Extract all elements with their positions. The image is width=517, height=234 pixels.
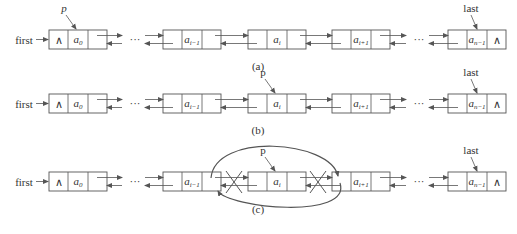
list-node: ai−1 (163, 94, 221, 113)
panel-a: first∧a0ai−1aiai+1an−1∧······plast(a) (15, 2, 506, 73)
ellipsis: ··· (130, 33, 141, 45)
p-pointer-arrow (66, 15, 76, 29)
p-pointer-label: p (60, 2, 67, 14)
head-pointer-label: first (15, 98, 33, 110)
list-node: ∧a0 (49, 172, 107, 191)
null-prior-field: ∧ (55, 98, 63, 110)
ellipsis: ··· (414, 97, 425, 109)
list-node: ai−1 (163, 30, 221, 49)
p-pointer-label: p (260, 66, 266, 78)
panel-c: first∧a0ai−1aiai+1an−1∧······plast(c) (15, 144, 506, 216)
list-node: an−1∧ (448, 30, 506, 49)
list-node: ai−1 (163, 172, 221, 191)
null-prior-field: ∧ (55, 34, 63, 46)
list-node: ai+1 (332, 30, 390, 49)
null-next-field: ∧ (493, 176, 501, 188)
list-node: ∧a0 (49, 30, 107, 49)
linked-list-diagram: first∧a0ai−1aiai+1an−1∧······plast(a)fir… (0, 0, 517, 234)
panel-b: first∧a0ai−1aiai+1an−1∧······plast(b) (15, 66, 506, 137)
null-next-field: ∧ (493, 98, 501, 110)
ellipsis: ··· (130, 97, 141, 109)
last-pointer-label: last (463, 144, 478, 156)
list-node: ai (248, 94, 306, 113)
head-pointer-label: first (15, 34, 33, 46)
list-node: ai (248, 172, 306, 191)
panel-caption: (b) (252, 124, 265, 137)
list-node: ∧a0 (49, 94, 107, 113)
last-pointer-arrow (471, 15, 477, 29)
null-prior-field: ∧ (55, 176, 63, 188)
last-pointer-arrow (471, 157, 477, 171)
p-pointer-arrow (265, 157, 275, 171)
null-next-field: ∧ (493, 34, 501, 46)
list-node: an−1∧ (448, 94, 506, 113)
p-pointer-arrow (265, 79, 275, 93)
list-node: ai+1 (332, 94, 390, 113)
head-pointer-label: first (15, 176, 33, 188)
ellipsis: ··· (130, 175, 141, 187)
last-pointer-label: last (463, 66, 478, 78)
list-node: an−1∧ (448, 172, 506, 191)
last-pointer-arrow (471, 79, 477, 93)
last-pointer-label: last (463, 2, 478, 14)
list-node: ai (248, 30, 306, 49)
ellipsis: ··· (414, 33, 425, 45)
ellipsis: ··· (414, 175, 425, 187)
